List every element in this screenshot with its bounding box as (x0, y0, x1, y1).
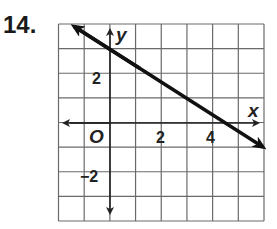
coordinate-graph: y x O 2 4 2 −2 (0, 0, 277, 229)
x-tick-4: 4 (206, 129, 215, 146)
origin-label: O (89, 126, 104, 147)
y-tick-2: 2 (92, 70, 101, 87)
y-tick-neg2: −2 (80, 168, 98, 185)
x-axis-label: x (247, 100, 260, 121)
y-axis-label: y (115, 24, 128, 45)
x-tick-2: 2 (156, 129, 165, 146)
